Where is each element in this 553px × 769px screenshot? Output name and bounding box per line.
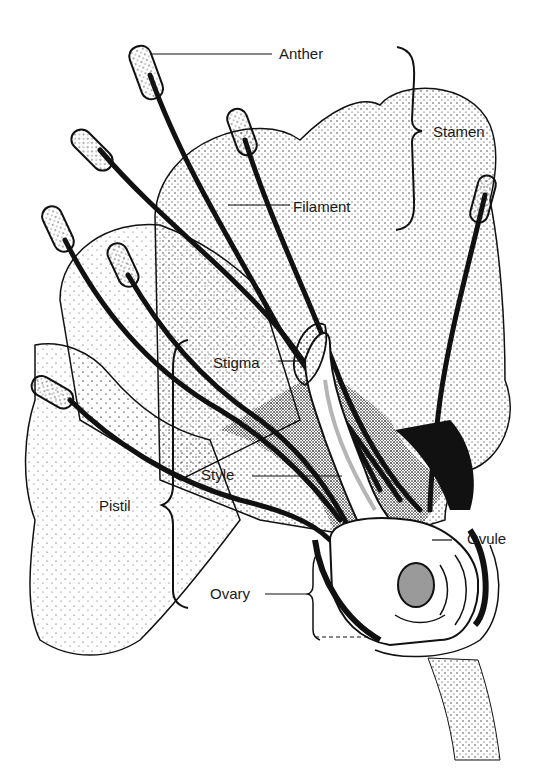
label-style: Style: [201, 467, 234, 482]
stem: [428, 658, 500, 760]
label-ovary: Ovary: [210, 586, 250, 601]
label-ovule: Ovule: [467, 531, 506, 546]
flower-diagram: Anther Stamen Filament Stigma Style Pist…: [0, 0, 553, 769]
label-filament: Filament: [293, 199, 351, 214]
label-stigma: Stigma: [213, 355, 260, 370]
label-stamen: Stamen: [433, 124, 485, 139]
label-anther: Anther: [279, 46, 323, 61]
label-pistil: Pistil: [99, 498, 131, 513]
flower-illustration: [0, 0, 553, 769]
